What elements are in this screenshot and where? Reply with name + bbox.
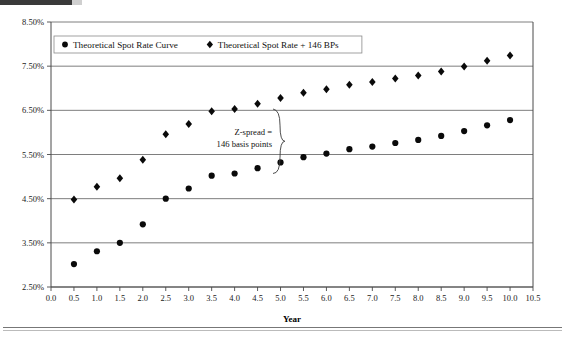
x-tick-label: 4.0 [229, 293, 240, 303]
legend-circle-marker [62, 42, 68, 48]
x-tick-label: 6.5 [344, 293, 355, 303]
data-point-circle [415, 137, 421, 143]
x-tick-label: 1.0 [92, 293, 103, 303]
data-points-group [71, 52, 514, 268]
figure-container: 2.50%3.50%4.50%5.50%6.50%7.50%8.50% 0.00… [0, 0, 565, 340]
data-point-circle [277, 159, 283, 165]
data-point-diamond [208, 107, 215, 115]
x-tick-label: 9.5 [482, 293, 493, 303]
x-tick-label: 0.0 [46, 293, 57, 303]
data-point-diamond [461, 63, 468, 71]
gridlines-group [51, 22, 533, 287]
y-tick-label: 2.50% [22, 282, 44, 292]
x-tick-labels-group: 0.00.51.01.52.02.53.03.54.04.55.05.56.06… [46, 293, 541, 303]
data-point-diamond [415, 71, 422, 79]
annotation-line-2: 146 basis points [217, 139, 273, 149]
data-point-diamond [231, 105, 238, 113]
y-tick-labels-group: 2.50%3.50%4.50%5.50%6.50%7.50%8.50% [22, 17, 44, 292]
legend-label-1: Theoretical Spot Rate Curve [73, 40, 178, 50]
data-point-diamond [392, 75, 399, 83]
data-point-circle [117, 240, 123, 246]
data-point-circle [254, 165, 260, 171]
data-point-circle [209, 173, 215, 179]
data-point-circle [186, 185, 192, 191]
scatter-chart: 2.50%3.50%4.50%5.50%6.50%7.50%8.50% 0.00… [0, 0, 565, 340]
y-tick-label: 4.50% [22, 194, 44, 204]
data-point-diamond [185, 120, 192, 128]
x-tick-label: 3.5 [206, 293, 217, 303]
y-tick-label: 5.50% [22, 150, 44, 160]
data-point-circle [507, 117, 513, 123]
data-point-circle [438, 133, 444, 139]
x-tick-label: 10.0 [503, 293, 518, 303]
x-tick-label: 7.0 [367, 293, 378, 303]
data-point-circle [163, 196, 169, 202]
data-point-diamond [254, 100, 261, 108]
x-tick-label: 1.5 [115, 293, 126, 303]
data-point-diamond [162, 130, 169, 138]
data-point-diamond [507, 52, 514, 60]
data-point-diamond [346, 81, 353, 89]
y-tick-label: 8.50% [22, 17, 44, 27]
x-tick-label: 5.0 [275, 293, 286, 303]
data-point-circle [484, 122, 490, 128]
data-point-diamond [300, 89, 307, 97]
x-tick-label: 4.5 [252, 293, 263, 303]
data-point-diamond [323, 85, 330, 93]
y-tick-label: 6.50% [22, 105, 44, 115]
x-tick-marks-group [51, 287, 533, 291]
footer-rule-secondary [3, 330, 562, 331]
data-point-circle [232, 170, 238, 176]
x-tick-label: 3.0 [183, 293, 194, 303]
data-point-circle [392, 140, 398, 146]
data-point-diamond [277, 94, 284, 102]
data-point-diamond [140, 156, 147, 164]
footer-rule [3, 327, 562, 328]
data-point-circle [140, 221, 146, 227]
legend-label-2: Theoretical Spot Rate + 146 BPs [218, 40, 339, 50]
annotation-line-1: Z-spread = [234, 127, 272, 137]
data-point-diamond [484, 57, 491, 65]
data-point-circle [346, 146, 352, 152]
data-point-circle [369, 143, 375, 149]
series-2 [71, 52, 514, 204]
data-point-diamond [369, 78, 376, 86]
data-point-circle [300, 154, 306, 160]
legend-group: Theoretical Spot Rate CurveTheoretical S… [54, 36, 362, 53]
x-tick-label: 8.0 [413, 293, 424, 303]
y-tick-label: 7.50% [22, 61, 44, 71]
x-tick-label: 2.5 [160, 293, 171, 303]
data-point-diamond [438, 67, 445, 75]
data-point-diamond [71, 196, 78, 204]
y-tick-label: 3.50% [22, 238, 44, 248]
x-axis-title: Year [283, 314, 301, 324]
data-point-diamond [94, 183, 101, 191]
x-tick-label: 0.5 [69, 293, 80, 303]
x-tick-label: 10.5 [526, 293, 541, 303]
data-point-circle [94, 248, 100, 254]
data-point-diamond [117, 174, 124, 182]
annotation-group: Z-spread =146 basis points [217, 109, 285, 173]
x-tick-label: 9.0 [459, 293, 470, 303]
x-tick-label: 2.0 [137, 293, 148, 303]
x-tick-label: 7.5 [390, 293, 401, 303]
data-point-circle [71, 261, 77, 267]
series-1 [71, 117, 513, 267]
x-tick-label: 5.5 [298, 293, 309, 303]
x-tick-label: 6.0 [321, 293, 332, 303]
data-point-circle [461, 128, 467, 134]
chart-plot-wrapper: 2.50%3.50%4.50%5.50%6.50%7.50%8.50% 0.00… [0, 0, 565, 340]
x-tick-label: 8.5 [436, 293, 447, 303]
data-point-circle [323, 151, 329, 157]
